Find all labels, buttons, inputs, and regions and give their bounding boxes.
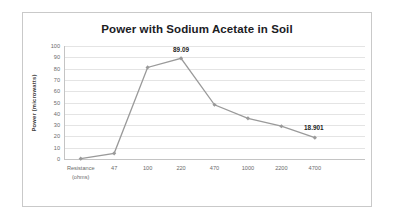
x-axis-tick-label-line: 4700: [309, 164, 321, 173]
x-axis-tick-label: 220: [176, 164, 185, 173]
y-axis-tick-label: 10: [54, 145, 60, 151]
x-axis-tick-label: 2200: [275, 164, 287, 173]
x-axis-tick-label: 100: [143, 164, 152, 173]
data-point-marker: [313, 136, 317, 140]
data-point-label: 18.901: [304, 124, 324, 131]
x-axis-tick-label: Resistance(ohms): [67, 164, 95, 181]
x-axis-tick-label-line: 47: [111, 164, 117, 173]
y-axis-tick-label: 30: [54, 122, 60, 128]
chart-title: Power with Sodium Acetate in Soil: [23, 23, 371, 35]
y-axis-tick-label: 60: [54, 88, 60, 94]
gridline: [64, 159, 365, 160]
y-axis-tick-label: 90: [54, 54, 60, 60]
y-axis-tick-label: 70: [54, 77, 60, 83]
y-axis-tick-label: 20: [54, 133, 60, 139]
x-axis-tick-label-line: 100: [143, 164, 152, 173]
x-axis-tick-label-line: Resistance: [67, 164, 95, 173]
x-axis-tick-label-line: 1000: [242, 164, 254, 173]
data-point-marker: [246, 116, 250, 120]
y-axis-title-label: Power (microwatts): [31, 74, 37, 131]
x-axis-tick-label-line: (ohms): [67, 173, 95, 182]
series-polyline: [81, 58, 315, 158]
y-axis-tick-label: 50: [54, 100, 60, 106]
chart-figure: Power with Sodium Acetate in Soil Power …: [22, 12, 372, 207]
y-axis-tick-label: 0: [57, 156, 60, 162]
x-axis-tick-label: 4700: [309, 164, 321, 173]
series-line: [64, 46, 365, 159]
x-axis-tick-label: 47: [111, 164, 117, 173]
data-point-marker: [79, 157, 83, 161]
x-axis-tick-label: 470: [210, 164, 219, 173]
x-axis-tick-label-line: 470: [210, 164, 219, 173]
y-axis-tick-label: 40: [54, 111, 60, 117]
plot-area: 0102030405060708090100Resistance(ohms)47…: [64, 46, 365, 159]
data-point-marker: [279, 124, 283, 128]
x-axis-tick-label: 1000: [242, 164, 254, 173]
data-point-label: 89.09: [173, 46, 189, 53]
y-axis-tick-label: 80: [54, 66, 60, 72]
y-axis-title: Power (microwatts): [29, 46, 39, 159]
data-point-marker: [146, 65, 150, 69]
y-axis-tick-label: 100: [51, 43, 60, 49]
x-axis-tick-label-line: 220: [176, 164, 185, 173]
x-axis-tick-label-line: 2200: [275, 164, 287, 173]
data-point-marker: [112, 151, 116, 155]
